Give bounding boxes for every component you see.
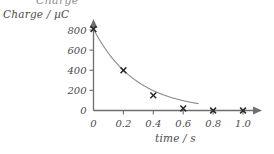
data-point-markers xyxy=(91,26,246,113)
x-tick-label: 0.4 xyxy=(145,118,161,129)
chart-figure: Charge Charge / µC time / s 020040060080… xyxy=(0,0,274,154)
x-tick-label: 0 xyxy=(90,118,97,129)
y-tick-label: 400 xyxy=(66,65,87,76)
axes-group xyxy=(90,19,263,115)
y-tick-label: 0 xyxy=(80,105,87,116)
x-tick-group: 00.20.40.60.81.0 xyxy=(90,111,251,129)
y-tick-label: 600 xyxy=(67,45,87,56)
y-tick-label: 800 xyxy=(67,25,87,36)
decay-curve xyxy=(94,29,199,104)
x-tick-label: 1.0 xyxy=(235,118,252,129)
data-point xyxy=(150,93,156,99)
data-point xyxy=(121,67,127,73)
x-axis-arrowhead xyxy=(253,107,262,115)
y-tick-group: 0200400600800 xyxy=(66,25,93,116)
plot-area: 0200400600800 00.20.40.60.81.0 xyxy=(0,0,274,154)
x-tick-label: 0.8 xyxy=(205,118,221,129)
y-tick-label: 200 xyxy=(66,85,87,96)
x-tick-label: 0.6 xyxy=(175,118,192,129)
x-tick-label: 0.2 xyxy=(115,118,131,129)
